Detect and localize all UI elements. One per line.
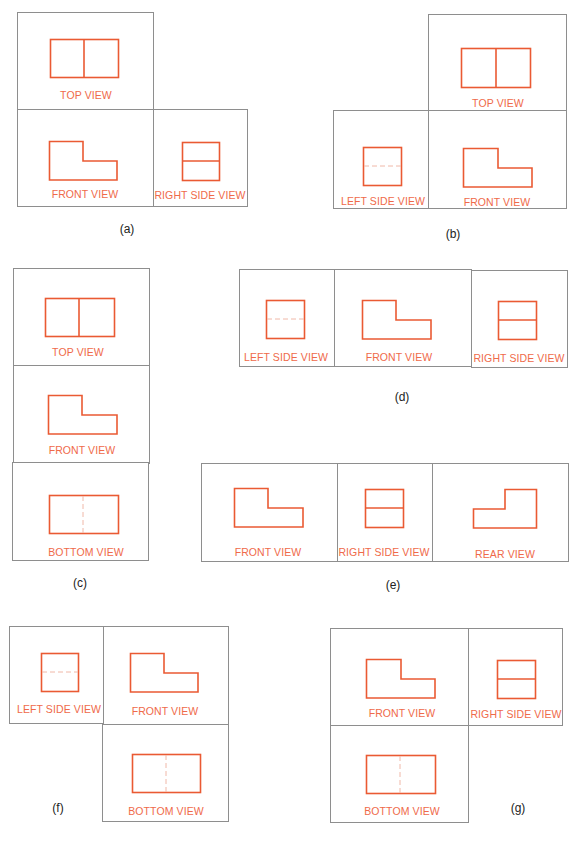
bottom-view-drawing [49,495,119,534]
top-view-drawing [50,39,119,78]
front-view-drawing [234,488,304,528]
front-view-label: FRONT VIEW [366,351,433,363]
front-view-drawing [49,141,118,181]
bottom-view-drawing [132,754,201,793]
front-view-label: FRONT VIEW [235,546,302,558]
rear-view-label: REAR VIEW [475,548,535,560]
figure-caption: (g) [511,801,526,815]
top-view-label: TOP VIEW [52,346,104,358]
front-view-drawing [366,659,436,699]
top-view-drawing [45,298,115,337]
top-view-label: TOP VIEW [472,97,524,109]
figure-caption: (b) [446,227,461,241]
right-side-view-drawing [182,142,220,181]
right-side-view-drawing [365,489,404,528]
right-side-view-label: RIGHT SIDE VIEW [338,546,429,558]
left-side-view-drawing [363,147,402,186]
figure-caption: (c) [73,576,87,590]
bottom-view-drawing [366,755,436,794]
right-side-view-label: RIGHT SIDE VIEW [470,708,561,720]
figure-caption: (e) [386,578,401,592]
figure-caption: (d) [395,390,410,404]
left-side-view-drawing [266,300,305,339]
bottom-view-label: BOTTOM VIEW [48,546,124,558]
left-side-view-drawing [41,653,79,692]
front-view-drawing [362,300,432,340]
front-view-label: FRONT VIEW [49,444,116,456]
right-side-view-label: RIGHT SIDE VIEW [154,189,245,201]
front-view-label: FRONT VIEW [369,707,436,719]
right-side-view-drawing [497,660,536,699]
figure-caption: (a) [120,222,135,236]
bottom-view-label: BOTTOM VIEW [128,805,204,817]
top-view-drawing [461,48,531,88]
left-side-view-label: LEFT SIDE VIEW [17,703,101,715]
left-side-view-label: LEFT SIDE VIEW [341,195,425,207]
front-view-drawing [48,395,118,435]
left-side-view-label: LEFT SIDE VIEW [244,351,328,363]
figure-caption: (f) [52,801,63,815]
front-view-label: FRONT VIEW [464,196,531,208]
front-view-drawing [130,653,199,693]
top-view-label: TOP VIEW [60,89,112,101]
right-side-view-drawing [498,301,537,340]
front-view-label: FRONT VIEW [132,705,199,717]
rear-view-drawing [473,489,537,529]
right-side-view-label: RIGHT SIDE VIEW [473,352,564,364]
front-view-label: FRONT VIEW [52,188,119,200]
bottom-view-label: BOTTOM VIEW [364,805,440,817]
front-view-drawing [463,148,533,188]
